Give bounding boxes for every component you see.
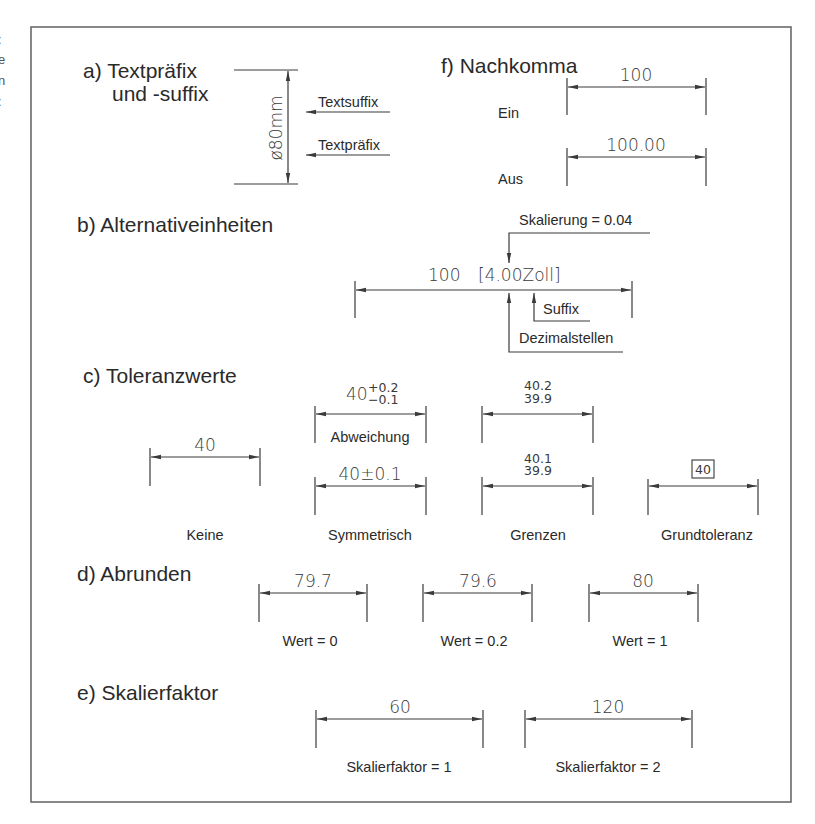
svg-text::: : [0,32,2,47]
dimension-text-diameter: ø80mm [266,95,286,160]
section-d-title: d) Abrunden [77,562,191,585]
label-symmetrisch: Symmetrisch [328,527,412,543]
label-scale-2: Skalierfaktor = 2 [555,759,660,775]
limit-lower-bottom: 39.9 [524,463,552,478]
dimension-value-alternate: [4.00Zoll] [478,265,561,285]
section-f-decimal: f) Nachkomma 100 Ein 100.00 Aus [441,54,706,187]
callout-text-suffix-b: Suffix [543,301,580,317]
dimension-value-ein: 100 [620,65,652,85]
section-b-title: b) Alternativeinheiten [77,213,273,236]
dimension-value-round-0: 79.7 [294,571,332,591]
dimension-value-primary: 100 [428,265,460,285]
section-c-title: c) Toleranzwerte [83,364,237,387]
label-scale-1: Skalierfaktor = 1 [346,759,451,775]
callout-text-prefix: Textpräfix [318,137,381,153]
label-grundtoleranz: Grundtoleranz [661,527,753,543]
limit-lower-top: 39.9 [524,391,552,406]
label-keine: Keine [186,527,223,543]
dimension-value-keine: 40 [194,435,216,455]
label-abweichung: Abweichung [331,429,410,445]
dimension-value-grundtoleranz: 40 [695,462,711,477]
label-round-1: Wert = 1 [613,633,668,649]
section-b-alternate-units: b) Alternativeinheiten Skalierung = 0.04… [77,212,650,352]
label-ein: Ein [498,105,519,121]
tolerance-lower: −0.1 [368,392,398,407]
section-e-title: e) Skalierfaktor [77,681,218,704]
dimension-value-scale-1: 60 [389,697,411,717]
svg-text:n: n [0,73,5,88]
section-d-rounding: d) Abrunden 79.7 Wert = 0 79.6 Wert = 0.… [77,562,698,649]
dimension-value-scale-2: 120 [592,697,624,717]
dimension-value-deviation-base: 40 [346,384,368,404]
label-aus: Aus [498,171,523,187]
dimension-value-round-1: 80 [632,571,654,591]
section-a-text-prefix-suffix: a) Textpräfix und -suffix ø80mm Textsuff… [83,59,390,184]
section-f-title: f) Nachkomma [441,54,578,77]
svg-text:e: e [0,52,5,67]
label-round-02: Wert = 0.2 [440,633,507,649]
callout-text-scale: Skalierung = 0.04 [519,212,632,228]
dimension-value-symmetrisch: 40±0.1 [339,464,402,484]
label-round-0: Wert = 0 [283,633,338,649]
section-a-title-line2: und -suffix [112,82,209,105]
section-a-title-line1: a) Textpräfix [83,59,197,82]
dimension-style-diagram: : e n : a) Textpräfix und -suffix ø80mm … [0,0,815,824]
clipped-edge-text: : e n : [0,32,5,109]
callout-text-suffix: Textsuffix [318,94,379,110]
section-c-tolerances: c) Toleranzwerte 40 Keine 40 +0.2 −0.1 A… [83,364,758,543]
callout-leader-scale [509,233,650,263]
section-e-scale-factor: e) Skalierfaktor 60 Skalierfaktor = 1 12… [77,681,692,775]
label-grenzen: Grenzen [510,527,566,543]
dimension-value-round-02: 79.6 [459,571,497,591]
dimension-value-aus: 100.00 [606,135,665,155]
callout-text-decimals: Dezimalstellen [519,330,613,346]
svg-text::: : [0,94,2,109]
